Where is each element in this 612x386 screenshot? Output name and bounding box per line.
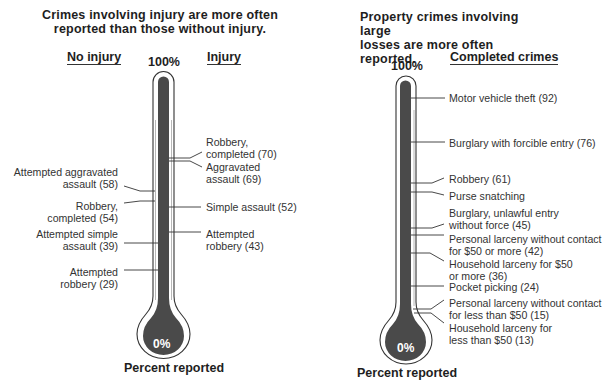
left-title-line2: reported than those without injury. xyxy=(40,22,280,36)
label-aggravated-assault: Aggravatedassault (69) xyxy=(206,161,261,185)
label-pocket-picking: Pocket picking (24) xyxy=(449,281,539,293)
label-attempted-simple-assault: Attempted simpleassault (39) xyxy=(36,228,118,252)
left-chart-title: Crimes involving injury are more often r… xyxy=(40,8,280,36)
label-burglary-unlawful-entry: Burglary, unlawful entrywithout force (4… xyxy=(449,207,559,231)
right-thermometer xyxy=(380,76,445,364)
label-purse-snatching: Purse snatching xyxy=(449,190,525,202)
left-bottom-label: 0% xyxy=(153,337,170,351)
label-robbery-completed-no-injury: Robbery,completed (54) xyxy=(47,200,118,224)
left-axis-label: Percent reported xyxy=(124,361,224,375)
label-attempted-robbery-no-injury: Attemptedrobbery (29) xyxy=(60,266,118,290)
label-simple-assault: Simple assault (52) xyxy=(206,201,297,213)
injury-heading: Injury xyxy=(207,50,241,65)
left-thermometer xyxy=(124,72,202,359)
label-attempted-aggravated-assault: Attempted aggravatedassault (58) xyxy=(14,166,118,190)
label-burglary-forcible-entry: Burglary with forcible entry (76) xyxy=(449,137,596,149)
no-injury-heading: No injury xyxy=(67,50,121,65)
label-robbery: Robbery (61) xyxy=(449,173,511,185)
label-motor-vehicle-theft: Motor vehicle theft (92) xyxy=(449,92,557,104)
label-robbery-completed-injury: Robbery,completed (70) xyxy=(206,136,277,160)
label-household-larceny-50-more: Household larceny for $50or more (36) xyxy=(449,258,573,282)
right-axis-label: Percent reported xyxy=(357,366,457,380)
completed-crimes-heading: Completed crimes xyxy=(450,50,558,65)
right-title-line1: Property crimes involving large xyxy=(360,10,550,38)
label-personal-larceny-50-more: Personal larceny without contactfor $50 … xyxy=(449,233,602,257)
left-title-line1: Crimes involving injury are more often xyxy=(40,8,280,22)
right-bottom-label: 0% xyxy=(397,341,414,355)
label-attempted-robbery-injury: Attemptedrobbery (43) xyxy=(206,228,264,252)
label-personal-larceny-less-50: Personal larceny without contactfor less… xyxy=(449,297,602,321)
right-top-label: 100% xyxy=(391,59,423,73)
left-top-label: 100% xyxy=(148,55,180,69)
label-household-larceny-less-50: Household larceny forless than $50 (13) xyxy=(449,322,552,346)
